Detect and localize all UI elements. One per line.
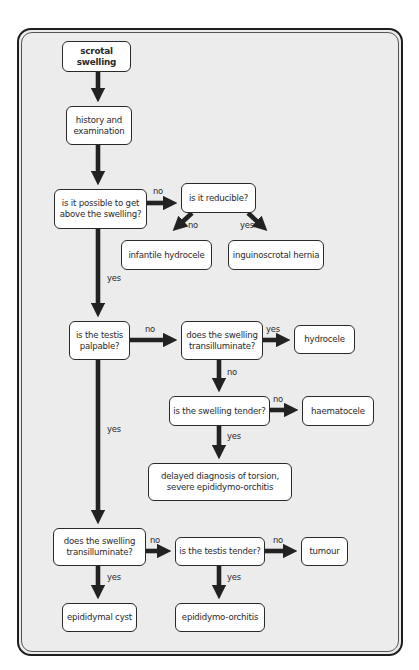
node-history-examination: history and examination [66, 106, 132, 145]
node-epididymal-cyst: epididymal cyst [62, 603, 137, 632]
node-testis-tender: is the testis tender? [175, 537, 265, 566]
edge-label-no: no [273, 394, 283, 404]
edge-label-yes: yes [227, 572, 241, 582]
edge-label-no: no [145, 324, 155, 334]
node-infantile-hydrocele: infantile hydrocele [121, 240, 212, 270]
node-epididymo-orchitis: epididymo-orchitis [175, 603, 265, 632]
node-inguinoscrotal-hernia: inguinoscrotal hernia [228, 240, 324, 270]
node-transilluminate-1: does the swelling transilluminate? [181, 321, 263, 360]
node-transilluminate-2: does the swelling transilluminate? [53, 528, 146, 566]
edge-label-no: no [273, 535, 283, 545]
edge-label-no: no [227, 367, 237, 377]
node-haematocele: haematocele [302, 396, 374, 426]
node-tumour: tumour [301, 537, 348, 566]
node-reducible: is it reducible? [181, 183, 256, 213]
node-get-above-swelling: is it possible to get above the swelling… [54, 189, 147, 229]
edge-label-no: no [150, 535, 160, 545]
edge-label-yes: yes [107, 572, 121, 582]
edge-label-yes: yes [227, 431, 241, 441]
edge-label-yes: yes [266, 324, 280, 334]
edge-label-no: no [188, 220, 198, 230]
node-swelling-tender: is the swelling tender? [169, 396, 270, 426]
node-hydrocele: hydrocele [294, 325, 355, 354]
node-scrotal-swelling: scrotal swelling [62, 41, 131, 72]
edge-label-no: no [153, 186, 163, 196]
edge-label-yes: yes [240, 220, 254, 230]
edge-label-yes: yes [107, 424, 121, 434]
node-testis-palpable: is the testis palpable? [69, 321, 130, 360]
node-delayed-diagnosis: delayed diagnosis of torsion, severe epi… [148, 463, 292, 501]
edge-label-yes: yes [107, 273, 121, 283]
